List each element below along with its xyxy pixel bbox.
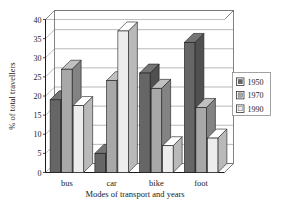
legend-item-1950[interactable]: 1950 [237,78,264,87]
bar-front-face [62,69,73,172]
bar-chart-figure: 0510152025303540buscarbikefootModes of t… [0,0,285,202]
legend-item-1990[interactable]: 1990 [237,105,264,114]
y-axis-tick-label: 5 [38,149,42,158]
legend-swatch [238,106,242,110]
y-axis-title: % of total travellers [7,62,17,129]
bar-front-face [196,107,207,172]
bar-front-face [95,153,106,172]
y-axis-tick-label: 30 [34,54,42,63]
legend-label-1990: 1990 [248,105,264,114]
bar-side-face [128,22,137,173]
bar-front-face [118,31,129,173]
y-axis-title-group: % of total travellers [7,62,17,129]
bar-front-face [50,100,61,173]
bar-front-face [73,106,84,173]
y-axis-tick-label: 40 [34,16,42,25]
y-axis-tick-label: 10 [34,130,42,139]
x-axis-category-label-foot: foot [194,178,208,188]
x-axis-category-label-car: car [106,178,117,188]
bar-side-face [84,97,93,173]
bar-car-1990 [118,22,138,173]
legend-item-1970[interactable]: 1970 [237,91,264,100]
bar-front-face [140,73,151,172]
y-axis-tick-label: 25 [34,73,42,82]
legend-swatch [238,79,242,83]
legend: 195019701990 [233,73,271,116]
chart-canvas: 0510152025303540buscarbikefootModes of t… [0,0,285,202]
x-axis-title: Modes of transport and years [85,189,184,199]
bar-front-face [106,81,117,173]
y-axis-tick-label: 15 [34,111,42,120]
plot-top-face [46,11,234,20]
legend-label-1950: 1950 [248,78,264,87]
bar-front-face [163,146,174,173]
bar-bus-1990 [73,97,93,173]
legend-swatch [238,93,242,97]
legend-label-1970: 1970 [248,91,264,100]
x-axis-category-label-bike: bike [149,178,164,188]
y-axis-tick-label: 20 [34,92,42,101]
bar-foot-1990 [207,129,227,172]
bar-front-face [151,88,162,172]
y-axis-tick-label: 0 [38,169,42,178]
y-axis-tick-label: 35 [34,35,42,44]
bar-front-face [207,138,218,172]
x-axis-category-label-bus: bus [61,178,73,188]
bar-front-face [184,42,195,172]
